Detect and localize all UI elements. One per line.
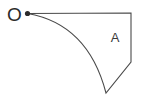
figure-canvas: O A	[0, 0, 149, 98]
origin-point-dot	[25, 11, 30, 16]
region-a-outline	[28, 13, 132, 93]
origin-label: O	[7, 4, 22, 25]
geometry-figure: O A	[0, 0, 149, 98]
region-label-a: A	[111, 30, 120, 45]
